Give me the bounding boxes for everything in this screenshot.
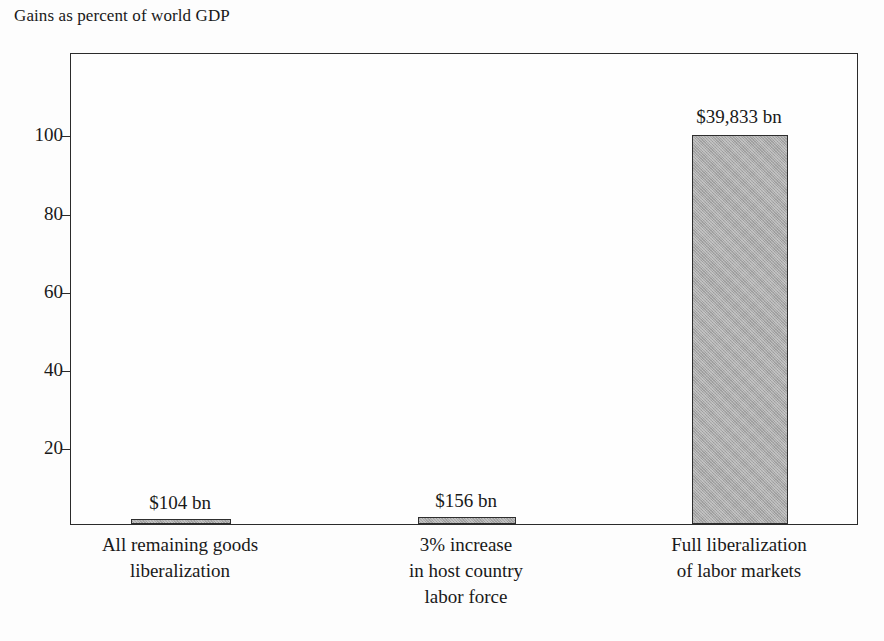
x-axis-category-label-line: labor force <box>409 584 523 610</box>
x-axis-category-label-line: liberalization <box>102 558 258 584</box>
bar-value-label: $104 bn <box>149 492 211 514</box>
y-axis-tick-mark <box>62 293 71 294</box>
x-axis-category-label: Full liberalizationof labor markets <box>671 532 807 584</box>
y-axis-tick-label: 20 <box>44 437 63 459</box>
x-axis-category-label-line: 3% increase <box>409 532 523 558</box>
bar <box>418 517 516 524</box>
bar <box>131 519 231 524</box>
y-axis-tick-mark <box>62 371 71 372</box>
x-axis-category-label: All remaining goodsliberalization <box>102 532 258 584</box>
y-axis-tick-label: 60 <box>44 281 63 303</box>
y-axis-tick-mark <box>62 215 71 216</box>
x-axis-category-label-line: in host country <box>409 558 523 584</box>
x-axis-category-label: 3% increasein host countrylabor force <box>409 532 523 610</box>
bar <box>692 135 788 524</box>
x-axis-category-label-line: All remaining goods <box>102 532 258 558</box>
bar-chart-figure: Gains as percent of world GDP 2040608010… <box>0 0 884 641</box>
y-axis-tick-mark <box>62 136 71 137</box>
y-axis-tick-label: 40 <box>44 359 63 381</box>
y-axis-tick-mark <box>62 449 71 450</box>
chart-title: Gains as percent of world GDP <box>14 5 230 27</box>
bar-value-label: $156 bn <box>435 490 497 512</box>
y-axis-tick-label: 80 <box>44 203 63 225</box>
bar-value-label: $39,833 bn <box>696 106 782 128</box>
y-axis-tick-label: 100 <box>35 124 64 146</box>
x-axis-category-label-line: Full liberalization <box>671 532 807 558</box>
x-axis-category-label-line: of labor markets <box>671 558 807 584</box>
